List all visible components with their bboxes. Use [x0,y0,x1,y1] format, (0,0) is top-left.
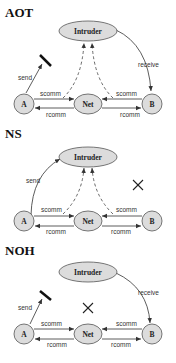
edge-label-send: send [18,304,32,311]
intruder-node: Intruder [59,147,117,167]
edge-label-receive: receive [138,289,159,296]
a-label: A [21,100,27,109]
net-node: Net [74,211,102,231]
edge-label-rcomm-a: rcomm [46,111,66,118]
edge-label-scomm-a: scomm [40,90,61,97]
a-node: A [14,94,34,114]
blocked-icon [40,291,51,300]
intruder-node: Intruder [59,262,117,282]
net-to-intruder-edge-right [92,43,113,98]
intruder-label: Intruder [74,268,103,277]
edge-label-rcomm-a: rcomm [47,341,67,348]
a-node: A [14,324,34,344]
edge-label-scomm-a: scomm [41,320,62,327]
removed-icon [83,303,93,313]
intruder-node: Intruder [59,21,117,41]
net-node: Net [74,324,102,344]
b-node: B [142,94,162,114]
net-label: Net [82,330,94,339]
b-node: B [142,211,162,231]
edge-label-rcomm-b: rcomm [111,228,131,235]
edge-label-send: send [18,74,32,81]
panel-aot: AOT send receive scomm rcomm scomm rcomm… [5,5,162,118]
intruder-label: Intruder [74,27,103,36]
edge-label-rcomm-b: rcomm [111,341,131,348]
net-node: Net [74,94,102,114]
net-to-intruder-edge-left [63,43,84,98]
receive-edge [116,273,150,323]
edge-label-receive: receive [138,61,159,68]
net-label: Net [82,100,94,109]
a-label: A [21,330,27,339]
panel-ns: NS send scomm rcomm scomm rcomm Intruder… [5,126,162,235]
a-node: A [14,211,34,231]
net-to-intruder-edge-right [92,168,113,214]
edge-label-scomm-b: scomm [116,90,137,97]
edge-label-scomm-b: scomm [116,206,137,213]
edge-label-rcomm-b: rcomm [120,111,140,118]
net-label: Net [82,217,94,226]
edge-label-scomm-a: scomm [41,206,62,213]
panel-noh: NOH send receive scomm rcomm scomm rcomm… [5,243,162,348]
net-to-intruder-edge-left [63,168,84,214]
b-label: B [149,330,154,339]
panel-title: AOT [5,5,34,20]
panel-title: NOH [5,243,35,258]
edge-label-scomm-b: scomm [116,320,137,327]
b-node: B [142,324,162,344]
panel-title: NS [5,126,22,141]
removed-icon [133,180,143,190]
b-label: B [149,100,154,109]
edge-label-rcomm-a: rcomm [46,228,66,235]
b-label: B [149,217,154,226]
edge-label-send: send [26,177,40,184]
intruder-label: Intruder [74,153,103,162]
a-label: A [21,217,27,226]
